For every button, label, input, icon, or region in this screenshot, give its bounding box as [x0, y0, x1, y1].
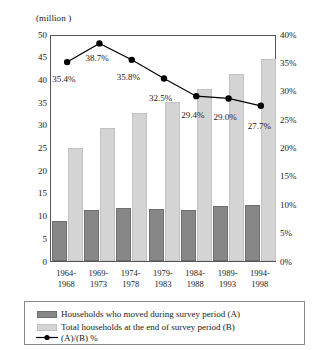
- line-data-label: 32.5%: [149, 94, 172, 103]
- x-axis-category-label: 1979-1983: [145, 268, 181, 290]
- y-axis-right-tick-label: 0%: [280, 258, 320, 267]
- y-axis-left-tick-label: 5: [7, 235, 47, 244]
- x-axis-category-label: 1974-1978: [113, 268, 149, 290]
- y-axis-left-tick-label: 50: [7, 31, 47, 40]
- ratio-line-marker: [96, 40, 102, 46]
- y-axis-right-tick-label: 35%: [280, 59, 320, 68]
- units-caption: (million ): [36, 13, 71, 23]
- x-axis-category-line1: 1979-: [145, 268, 181, 279]
- ratio-line-marker: [258, 103, 264, 109]
- y-axis-right-tick-label: 40%: [280, 31, 320, 40]
- x-axis-category-label: 1989-1993: [210, 268, 246, 290]
- legend-line-marker-icon: [36, 333, 58, 342]
- y-axis-left-tick-label: 15: [7, 189, 47, 198]
- y-axis-left-tick-label: 35: [7, 99, 47, 108]
- x-axis-category-label: 1964-1968: [48, 268, 84, 290]
- ratio-line-marker: [129, 57, 135, 63]
- x-axis-category-line2: 1968: [48, 279, 84, 290]
- ratio-line-marker: [64, 59, 70, 65]
- x-axis-category-line2: 1988: [177, 279, 213, 290]
- y-axis-left-tick-label: 25: [7, 144, 47, 153]
- legend-label-total-households: Total households at the end of survey pe…: [61, 322, 235, 333]
- ratio-line-marker: [193, 93, 199, 99]
- x-axis-category-label: 1969-1973: [80, 268, 116, 290]
- y-axis-right-tick-label: 10%: [280, 201, 320, 210]
- x-axis-category-line1: 1974-: [113, 268, 149, 279]
- x-axis-category-line1: 1969-: [80, 268, 116, 279]
- ratio-line-marker: [225, 95, 231, 101]
- y-axis-left-tick-label: 10: [7, 212, 47, 221]
- ratio-line-series: [51, 36, 277, 263]
- x-axis-category-line2: 1998: [242, 279, 278, 290]
- line-data-label: 29.0%: [214, 113, 237, 122]
- y-axis-left-tick-label: 20: [7, 167, 47, 176]
- x-axis-category-line1: 1989-: [210, 268, 246, 279]
- x-axis-category-line1: 1984-: [177, 268, 213, 279]
- y-axis-right-tick-label: 25%: [280, 116, 320, 125]
- x-axis-category-line1: 1994-: [242, 268, 278, 279]
- legend: Households who moved during survey perio…: [24, 301, 305, 345]
- x-axis-category-line2: 1983: [145, 279, 181, 290]
- legend-label-households-moved: Households who moved during survey perio…: [61, 309, 240, 320]
- x-axis-category-line1: 1964-: [48, 268, 84, 279]
- line-data-label: 35.4%: [52, 75, 75, 84]
- line-data-label: 27.7%: [248, 122, 271, 131]
- line-data-label: 38.7%: [85, 54, 108, 63]
- line-data-label: 35.8%: [117, 73, 140, 82]
- y-axis-left-tick-label: 30: [7, 121, 47, 130]
- y-axis-right-tick-label: 30%: [280, 87, 320, 96]
- legend-swatch-households-moved: [37, 311, 57, 318]
- legend-swatch-total-households: [37, 324, 57, 331]
- x-axis-category-label: 1994-1998: [242, 268, 278, 290]
- x-axis-category-label: 1984-1988: [177, 268, 213, 290]
- y-axis-left-tick-label: 40: [7, 76, 47, 85]
- plot-area: [50, 35, 276, 262]
- x-axis-category-line2: 1973: [80, 279, 116, 290]
- y-axis-left-tick-label: 45: [7, 53, 47, 62]
- legend-label-ratio: (A)/(B) %: [61, 333, 98, 344]
- y-axis-right-tick-label: 20%: [280, 144, 320, 153]
- x-axis-category-line2: 1978: [113, 279, 149, 290]
- chart-container: (million ) 05101520253035404550 0%5%10%1…: [0, 0, 329, 350]
- y-axis-right-tick-label: 5%: [280, 229, 320, 238]
- line-data-label: 29.4%: [181, 111, 204, 120]
- x-axis-category-line2: 1993: [210, 279, 246, 290]
- y-axis-right-tick-label: 15%: [280, 172, 320, 181]
- y-axis-left-tick-label: 0: [7, 258, 47, 267]
- ratio-line-marker: [161, 75, 167, 81]
